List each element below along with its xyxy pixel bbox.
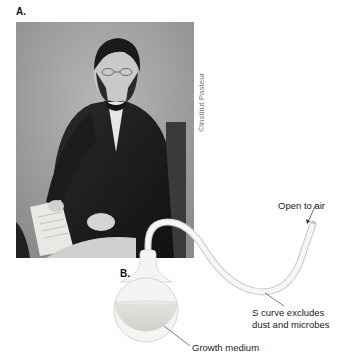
arrowhead-icon (306, 219, 310, 224)
callout-s-curve: S curve excludes dust and microbes (252, 307, 330, 331)
callout-s-curve-line2: dust and microbes (252, 319, 330, 331)
callout-open-to-air: Open to air (278, 200, 325, 212)
s-curve-leader (265, 293, 284, 306)
growth-medium-leader (164, 326, 190, 346)
callout-s-curve-line1: S curve excludes (252, 307, 330, 319)
callout-growth-medium: Growth medium (192, 342, 259, 354)
panel-label-b: B. (120, 268, 130, 279)
flask-bulb (114, 278, 178, 342)
s-curve-tube (148, 222, 313, 292)
